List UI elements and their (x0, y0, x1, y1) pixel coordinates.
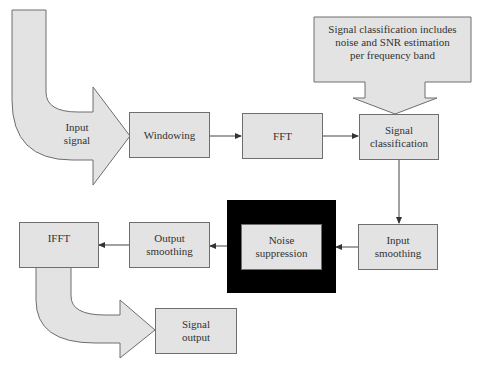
ifft-label: IFFT (48, 232, 71, 245)
noise-suppression-box: Noise suppression (241, 224, 322, 270)
fft-box: FFT (242, 113, 323, 159)
windowing-label: Windowing (144, 129, 196, 142)
signal-output-box: Signal output (155, 308, 237, 354)
windowing-box: Windowing (129, 112, 210, 158)
signal-classification-label: Signal classification (370, 124, 428, 150)
input-smoothing-label: Input smoothing (375, 234, 421, 260)
output-smoothing-label: Output smoothing (146, 232, 192, 258)
input-signal-label: Input signal (52, 121, 102, 147)
signal-classification-box: Signal classification (359, 114, 439, 160)
callout-text: Signal classification includes noise and… (314, 23, 471, 62)
input-smoothing-box: Input smoothing (358, 224, 438, 270)
noise-suppression-label: Noise suppression (256, 234, 308, 260)
signal-output-arrow (36, 263, 155, 358)
fft-label: FFT (273, 130, 292, 143)
signal-output-label: Signal output (182, 318, 210, 344)
ifft-box: IFFT (19, 222, 99, 268)
input-signal-arrow (12, 10, 130, 185)
output-smoothing-box: Output smoothing (129, 222, 210, 268)
